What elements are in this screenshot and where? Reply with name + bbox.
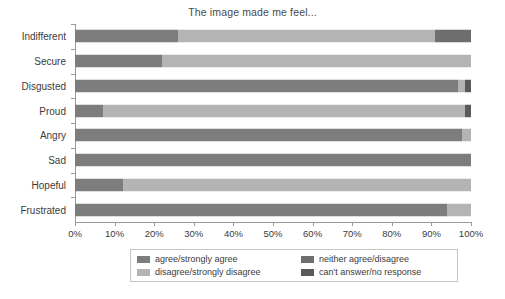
chart-row: Sad [75, 148, 471, 173]
legend-label: can't answer/no response [319, 267, 421, 277]
bar-segment [465, 104, 471, 117]
y-axis-tick [71, 148, 75, 149]
x-axis-tick [115, 222, 116, 226]
stacked-bar[interactable] [75, 55, 471, 68]
bar-segment [462, 129, 471, 142]
x-axis-tick [431, 222, 432, 226]
category-label: Disgusted [22, 80, 66, 91]
category-label: Angry [40, 130, 66, 141]
stacked-bar[interactable] [75, 129, 471, 142]
y-axis-tick [71, 98, 75, 99]
stacked-bar[interactable] [75, 79, 471, 92]
y-axis-tick [71, 24, 75, 25]
stacked-bar[interactable] [75, 203, 471, 216]
stacked-bar[interactable] [75, 30, 471, 43]
chart-row: Angry [75, 123, 471, 148]
category-label: Hopeful [32, 179, 66, 190]
legend-label: neither agree/disagree [319, 254, 409, 264]
x-axis-tick [273, 222, 274, 226]
chart-legend: agree/strongly agreeneither agree/disagr… [130, 249, 458, 282]
bar-segment [103, 104, 465, 117]
x-axis-tick [392, 222, 393, 226]
bar-segment [447, 203, 471, 216]
legend-swatch [137, 256, 150, 263]
x-axis-tick [154, 222, 155, 226]
category-label: Proud [39, 105, 66, 116]
bar-segment [465, 79, 471, 92]
x-axis-tick-label: 50% [263, 228, 282, 239]
bar-segment [75, 129, 462, 142]
bar-segment [75, 104, 103, 117]
stacked-bar-chart: The image made me feel... IndifferentSec… [0, 0, 505, 299]
x-axis-tick [233, 222, 234, 226]
bar-segment [75, 154, 471, 167]
chart-row: Proud [75, 98, 471, 123]
chart-row: Indifferent [75, 24, 471, 49]
legend-label: agree/strongly agree [155, 254, 238, 264]
bar-segment [178, 30, 435, 43]
x-axis-tick-label: 100% [459, 228, 483, 239]
category-label: Indifferent [22, 31, 66, 42]
chart-row: Hopeful [75, 173, 471, 198]
x-axis-tick-label: 20% [145, 228, 164, 239]
bar-segment [162, 55, 471, 68]
bar-segment [123, 178, 471, 191]
x-axis-tick [471, 222, 472, 226]
x-axis-tick-label: 10% [105, 228, 124, 239]
stacked-bar[interactable] [75, 104, 471, 117]
plot-area: IndifferentSecureDisgustedProudAngrySadH… [75, 24, 471, 222]
bar-segment [75, 203, 447, 216]
x-axis-tick [75, 222, 76, 226]
legend-swatch [301, 256, 314, 263]
x-axis-tick-label: 90% [422, 228, 441, 239]
legend-item[interactable]: can't answer/no response [301, 266, 451, 279]
y-axis-tick [71, 173, 75, 174]
legend-label: disagree/strongly disagree [155, 267, 261, 277]
x-axis-tick-label: 0% [68, 228, 82, 239]
legend-swatch [301, 269, 314, 276]
bar-segment [75, 30, 178, 43]
chart-row: Frustrated [75, 197, 471, 222]
bar-segment [75, 79, 458, 92]
bar-segment [458, 79, 465, 92]
y-axis-tick [71, 123, 75, 124]
chart-title: The image made me feel... [0, 6, 505, 18]
x-axis-tick-label: 70% [343, 228, 362, 239]
category-label: Sad [48, 155, 66, 166]
bar-segment [75, 55, 162, 68]
y-axis-tick [71, 197, 75, 198]
x-axis-tick-label: 40% [224, 228, 243, 239]
bar-segment [435, 30, 471, 43]
x-axis-tick [352, 222, 353, 226]
legend-item[interactable]: agree/strongly agree [137, 253, 297, 266]
x-axis-tick [313, 222, 314, 226]
legend-swatch [137, 269, 150, 276]
chart-row: Secure [75, 49, 471, 74]
category-label: Secure [34, 56, 66, 67]
stacked-bar[interactable] [75, 154, 471, 167]
x-axis-tick-label: 80% [382, 228, 401, 239]
chart-row: Disgusted [75, 74, 471, 99]
stacked-bar[interactable] [75, 178, 471, 191]
x-axis-tick-label: 60% [303, 228, 322, 239]
x-axis-tick-label: 30% [184, 228, 203, 239]
legend-item[interactable]: disagree/strongly disagree [137, 266, 297, 279]
y-axis-tick [71, 74, 75, 75]
y-axis-tick [71, 49, 75, 50]
category-label: Frustrated [20, 204, 66, 215]
x-axis-tick [194, 222, 195, 226]
bar-segment [75, 178, 123, 191]
legend-item[interactable]: neither agree/disagree [301, 253, 451, 266]
